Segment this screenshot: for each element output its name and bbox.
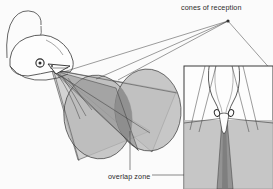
frontal-view-inset (184, 60, 273, 189)
leader-line-to-inset-right (228, 21, 273, 72)
label-cones-of-reception: cones of reception (181, 3, 242, 12)
eye-pupil-icon (39, 62, 42, 65)
cones-group (52, 67, 184, 164)
diagram-svg (0, 0, 273, 189)
label-overlap-zone: overlap zone (108, 172, 150, 181)
leader-line-to-head (60, 21, 228, 73)
figure-canvas: cones of reception overlap zone (0, 0, 273, 189)
bird-head-profile (7, 11, 74, 80)
nostril-icon (51, 65, 53, 67)
